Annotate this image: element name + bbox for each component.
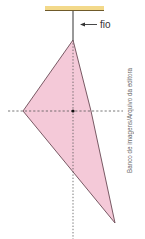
string-label: fio [100, 19, 111, 30]
image-credit: Banco de imagens/Arquivo da editora [126, 50, 136, 190]
ceiling-support [45, 6, 104, 10]
center-of-mass-dot [71, 109, 74, 112]
suspended-plate-diagram: fio [0, 0, 145, 239]
irregular-plate [23, 40, 115, 223]
string-arrow-head [80, 23, 85, 27]
